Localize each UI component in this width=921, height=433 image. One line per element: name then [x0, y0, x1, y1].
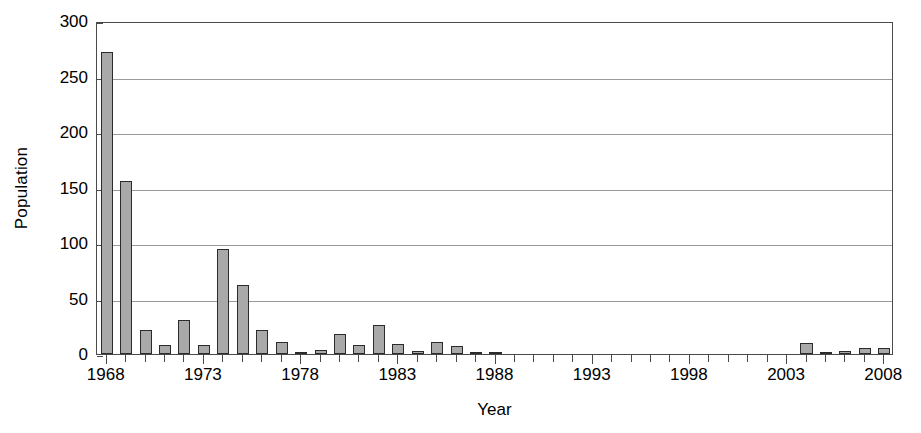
y-tick-label: 100: [8, 235, 88, 252]
x-tick-mark: [145, 355, 146, 362]
y-tick-label: 0: [8, 346, 88, 363]
x-tick-mark: [864, 355, 865, 362]
y-tick-label: 150: [8, 180, 88, 197]
x-tick-label: 1968: [66, 365, 146, 385]
x-tick-mark: [825, 355, 826, 362]
x-tick-mark: [339, 355, 340, 362]
bar: [839, 351, 851, 354]
bar: [451, 346, 463, 354]
plot-area: [96, 22, 893, 355]
x-tick-mark: [514, 355, 515, 362]
x-tick-mark: [378, 355, 379, 362]
x-tick-mark: [300, 355, 301, 364]
bar: [412, 351, 424, 354]
x-tick-label: 2008: [843, 365, 921, 385]
x-tick-mark: [669, 355, 670, 362]
x-tick-label: 2003: [746, 365, 826, 385]
y-tick-label: 50: [8, 291, 88, 308]
bar: [120, 181, 132, 354]
bar: [470, 352, 482, 354]
x-tick-mark: [728, 355, 729, 362]
bar: [101, 52, 113, 354]
y-tick-label: 200: [8, 124, 88, 141]
x-tick-mark: [611, 355, 612, 362]
bar: [820, 352, 832, 354]
x-tick-label: 1983: [357, 365, 437, 385]
x-tick-mark: [844, 355, 845, 362]
x-tick-mark: [436, 355, 437, 362]
bar: [859, 348, 871, 354]
bar: [392, 344, 404, 354]
x-tick-mark: [689, 355, 690, 364]
x-tick-mark: [261, 355, 262, 362]
x-tick-mark: [708, 355, 709, 362]
x-tick-label: 1993: [552, 365, 632, 385]
x-tick-mark: [183, 355, 184, 362]
population-bar-chart: Population 050100150200250300 Year 19681…: [0, 0, 921, 433]
bar-series: [97, 23, 892, 354]
x-tick-mark: [397, 355, 398, 364]
bar: [489, 352, 501, 354]
x-tick-mark: [553, 355, 554, 362]
bar: [800, 343, 812, 354]
bar: [178, 320, 190, 354]
bar: [353, 345, 365, 354]
x-tick-mark: [456, 355, 457, 362]
bar: [373, 325, 385, 354]
y-tick-label: 250: [8, 69, 88, 86]
y-tick-label: 300: [8, 13, 88, 30]
x-tick-label: 1973: [163, 365, 243, 385]
x-tick-mark: [650, 355, 651, 362]
bar: [256, 330, 268, 354]
bar: [878, 348, 890, 354]
x-tick-mark: [203, 355, 204, 364]
bar: [217, 249, 229, 354]
x-tick-mark: [786, 355, 787, 364]
x-tick-mark: [242, 355, 243, 362]
bar: [334, 334, 346, 354]
x-tick-mark: [222, 355, 223, 362]
bar: [237, 285, 249, 354]
x-tick-label: 1988: [455, 365, 535, 385]
bar: [315, 350, 327, 354]
x-axis-title: Year: [96, 400, 893, 420]
y-axis-tick-labels: 050100150200250300: [0, 22, 88, 355]
x-tick-mark: [164, 355, 165, 362]
x-tick-mark: [358, 355, 359, 362]
x-tick-mark: [572, 355, 573, 362]
x-tick-mark: [106, 355, 107, 364]
x-tick-mark: [767, 355, 768, 362]
bar: [431, 342, 443, 354]
x-tick-mark: [320, 355, 321, 362]
bar: [198, 345, 210, 354]
x-tick-label: 1978: [260, 365, 340, 385]
y-tick-mark: [97, 356, 103, 357]
x-tick-mark: [281, 355, 282, 362]
x-tick-mark: [806, 355, 807, 362]
bar: [159, 345, 171, 354]
x-tick-mark: [883, 355, 884, 364]
bar: [140, 330, 152, 354]
x-tick-mark: [475, 355, 476, 362]
x-tick-mark: [125, 355, 126, 362]
bar: [295, 352, 307, 354]
x-tick-label: 1998: [649, 365, 729, 385]
x-tick-mark: [631, 355, 632, 362]
x-tick-mark: [495, 355, 496, 364]
x-tick-mark: [533, 355, 534, 362]
bar: [276, 342, 288, 354]
x-tick-mark: [747, 355, 748, 362]
x-tick-mark: [592, 355, 593, 364]
x-tick-mark: [417, 355, 418, 362]
